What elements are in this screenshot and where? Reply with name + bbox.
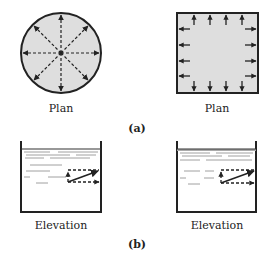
square-plan-diagram [177, 13, 258, 93]
circle-plan-diagram [21, 13, 101, 93]
caption-plan-left: Plan [49, 102, 74, 115]
part-label-a: (a) [128, 122, 146, 135]
figure: Plan Plan (a) [0, 0, 274, 259]
caption-elevation-left: Elevation [35, 219, 87, 232]
caption-plan-right: Plan [205, 102, 230, 115]
caption-elevation-right: Elevation [191, 219, 243, 232]
part-label-b: (b) [128, 238, 146, 251]
tank-elevation-right [177, 141, 256, 212]
tank-elevation-left [21, 141, 101, 212]
